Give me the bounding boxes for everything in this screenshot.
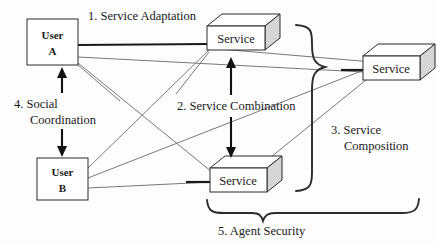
node-service-right[interactable]: Service <box>363 44 435 80</box>
link-user-a-to-service-right <box>78 57 364 72</box>
user-b-label-line1: User <box>52 166 74 178</box>
annotation-agent-security: 5. Agent Security <box>218 224 306 238</box>
brace-agent-security <box>207 199 419 221</box>
link-user-a-tail <box>78 65 120 101</box>
node-user-a[interactable]: User A <box>27 19 78 65</box>
user-b-label-line2: B <box>59 182 67 194</box>
user-a-box <box>27 19 78 65</box>
link-service-top-tail <box>176 52 209 94</box>
diagram-canvas: User A User B Service Service <box>0 0 437 244</box>
arrow-social-down-head <box>57 146 67 157</box>
link-user-a-to-service-top-bold <box>78 44 208 45</box>
arrow-combination-up-head <box>226 57 236 68</box>
brace-vertical-path <box>296 25 325 191</box>
user-a-label-line1: User <box>42 29 64 41</box>
node-service-bottom[interactable]: Service <box>210 156 282 192</box>
node-service-top[interactable]: Service <box>207 14 280 50</box>
node-user-b[interactable]: User B <box>37 158 88 200</box>
user-a-label-line2: A <box>49 45 57 57</box>
brace-horizontal-path <box>207 199 419 221</box>
brace-service-composition <box>296 25 325 191</box>
service-right-label: Service <box>372 62 410 76</box>
annotation-service-combination: 2. Service Combination <box>177 99 296 113</box>
annotation-service-composition-line1: 3. Service <box>331 123 381 137</box>
service-bottom-label: Service <box>219 174 257 188</box>
service-top-label: Service <box>217 32 255 46</box>
service-agent-diagram: User A User B Service Service <box>0 0 437 244</box>
annotation-service-adaptation: 1. Service Adaptation <box>88 9 197 23</box>
annotation-social-coordination-line2: Coordination <box>30 113 97 127</box>
arrow-social-coordination <box>57 67 67 157</box>
arrow-social-up-head <box>57 67 67 78</box>
annotation-social-coordination-line1: 4. Social <box>14 97 58 111</box>
annotation-service-composition-line2: Composition <box>344 139 409 153</box>
